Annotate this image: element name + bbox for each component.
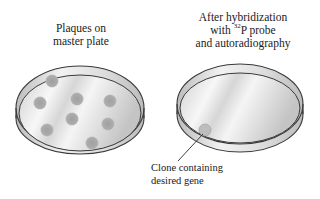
autoradiography-label-line1: After hybridization: [175, 11, 311, 24]
plaque: [66, 113, 79, 126]
plaque: [86, 137, 99, 150]
autoradiography-label-line2: with 32P probe: [175, 24, 311, 37]
plaque: [102, 118, 115, 131]
callout-line1: Clone containing: [151, 162, 223, 175]
master-plate-label-line2: master plate: [18, 35, 144, 48]
clone-callout-label: Clone containing desired gene: [151, 162, 223, 187]
autoradiography-label: After hybridization with 32P probe and a…: [175, 11, 311, 50]
plaque: [46, 75, 59, 88]
master-plate-label-line1: Plaques on: [18, 22, 144, 35]
probe-suffix: P probe: [241, 24, 276, 36]
autoradiograph-dish: [177, 64, 303, 152]
plaque: [71, 93, 84, 106]
positive-clone-spot: [199, 124, 211, 136]
plaque: [104, 95, 117, 108]
callout-line2: desired gene: [151, 175, 223, 188]
master-plate-label: Plaques on master plate: [18, 22, 144, 48]
autoradiography-label-line3: and autoradiography: [175, 37, 311, 50]
master-plate-dish: [16, 66, 144, 154]
isotope-superscript: 32: [234, 22, 241, 30]
probe-prefix: with: [210, 24, 233, 36]
plaque: [34, 97, 47, 110]
plaque: [41, 124, 54, 137]
